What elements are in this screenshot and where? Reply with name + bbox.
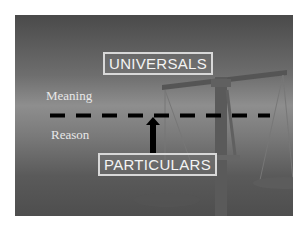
reason-label: Reason (51, 127, 89, 143)
universals-box: UNIVERSALS (103, 52, 213, 75)
particulars-box: PARTICULARS (98, 153, 217, 176)
meaning-label: Meaning (46, 88, 92, 104)
slide-panel: UNIVERSALS Meaning Reason PARTICULARS (15, 15, 293, 216)
dashed-divider-line (50, 113, 270, 118)
up-arrow-icon (146, 117, 160, 153)
